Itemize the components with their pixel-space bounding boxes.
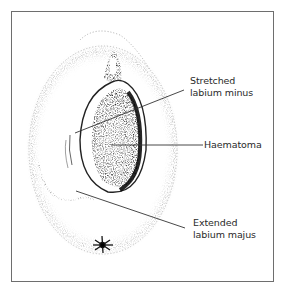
label-haematoma: Haematoma [204,139,262,151]
label-line: labium majus [193,229,256,241]
label-line: Stretched [190,75,253,87]
label-line: labium minus [190,87,253,99]
label-line: Haematoma [204,139,262,151]
label-line: Extended [193,217,256,229]
label-extended-labium-majus: Extended labium majus [193,217,256,241]
label-stretched-labium-minus: Stretched labium minus [190,75,253,99]
